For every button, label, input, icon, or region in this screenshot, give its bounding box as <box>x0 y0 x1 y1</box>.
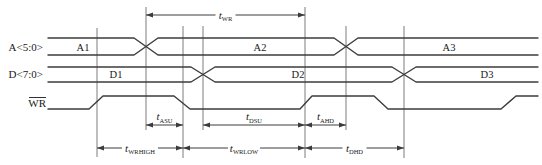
timing-annotation-wr: tWR <box>146 9 305 23</box>
bus-value-label: A2 <box>254 42 267 53</box>
bus-segment-labels: A1A2A3D1D2D3 <box>77 42 494 80</box>
waveform-bus-address <box>48 38 538 55</box>
arrowhead-left-icon <box>146 122 153 127</box>
timing-annotation-dsu: tDSU <box>203 110 305 128</box>
arrowhead-right-icon <box>298 12 305 17</box>
bus-value-label: D3 <box>481 69 494 80</box>
bus-value-label: D1 <box>110 69 123 80</box>
timing-diagram: A1A2A3D1D2D3 tWRtASUtDSUtAHDtWRHIGHtWRLO… <box>0 0 542 165</box>
timing-annotation-asu: tASU <box>146 110 183 128</box>
arrowhead-left-icon <box>183 145 190 150</box>
arrowhead-right-icon <box>298 145 305 150</box>
signal-label-wr: WR <box>28 97 46 109</box>
arrowhead-left-icon <box>305 122 312 127</box>
signal-label-data-bus: D<7:0> <box>9 68 43 80</box>
signal-name-labels: A<5:0> D<7:0> WR <box>9 41 47 109</box>
arrowhead-right-icon <box>176 122 183 127</box>
bus-value-label: A3 <box>443 42 456 53</box>
arrowhead-right-icon <box>176 145 183 150</box>
arrowhead-right-icon <box>298 122 305 127</box>
timing-annotation-wrlow: tWRLOW <box>183 142 305 156</box>
timing-label-dsu: tDSU <box>246 110 262 124</box>
bus-value-label: A1 <box>77 42 90 53</box>
timing-diagram-page: A1A2A3D1D2D3 tWRtASUtDSUtAHDtWRHIGHtWRLO… <box>0 0 542 165</box>
arrowhead-left-icon <box>203 122 210 127</box>
timing-annotation-wrhigh: tWRHIGH <box>97 142 183 156</box>
timing-annotation-dhd: tDHD <box>305 142 404 156</box>
timing-label-asu: tASU <box>156 110 172 124</box>
arrowhead-left-icon <box>305 145 312 150</box>
timing-label-wrlow: tWRLOW <box>230 142 259 156</box>
waveform-bus-address <box>48 38 538 55</box>
timing-annotation-ahd: tAHD <box>305 110 346 128</box>
timing-label-wrhigh: tWRHIGH <box>125 142 155 156</box>
timing-label-dhd: tDHD <box>346 142 363 156</box>
arrowhead-left-icon <box>146 12 153 17</box>
arrowhead-left-icon <box>97 145 104 150</box>
arrowhead-right-icon <box>339 122 346 127</box>
timing-label-ahd: tAHD <box>317 110 334 124</box>
signal-label-address-bus: A<5:0> <box>9 41 43 53</box>
arrowhead-right-icon <box>397 145 404 150</box>
bus-value-label: D2 <box>292 69 305 80</box>
timing-label-wr: tWR <box>219 9 233 23</box>
waveform-wr <box>48 96 538 109</box>
